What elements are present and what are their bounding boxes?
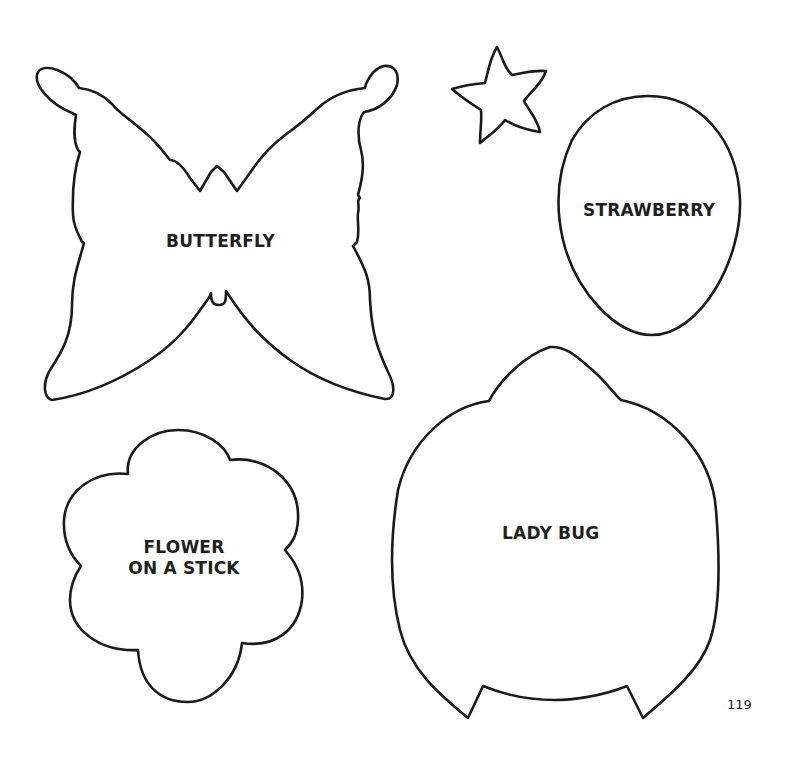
flower-label-line-2: ON A STICK [119, 558, 249, 579]
star-outline [452, 47, 546, 143]
strawberry-label: STRAWBERRY [583, 200, 715, 221]
flower-label: FLOWER ON A STICK [119, 537, 249, 579]
flower-label-line-1: FLOWER [119, 537, 249, 558]
ladybug-label: LADY BUG [502, 523, 599, 544]
page-number: 119 [727, 697, 752, 712]
butterfly-label: BUTTERFLY [166, 231, 275, 252]
template-canvas [0, 0, 785, 758]
